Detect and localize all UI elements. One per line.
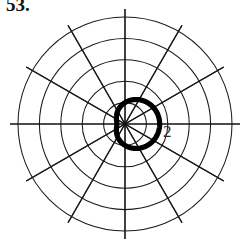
- axis-lines-group: [10, 9, 240, 239]
- polar-figure: 53. 2: [0, 0, 250, 249]
- radial-tick-label-2: 2: [163, 122, 172, 141]
- polar-plot-svg: 2: [0, 0, 250, 249]
